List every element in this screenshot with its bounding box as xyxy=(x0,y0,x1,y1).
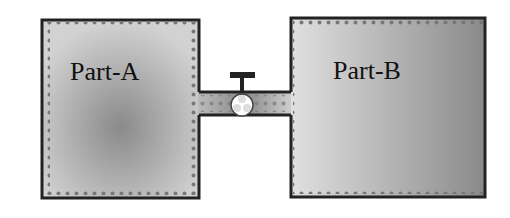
diagram-canvas: Part-A Part-B xyxy=(0,0,510,218)
part-a-tank xyxy=(42,20,199,198)
part-a-label: Part-A xyxy=(70,57,140,86)
part-b-tank xyxy=(291,18,485,197)
part-b-label: Part-B xyxy=(333,56,401,85)
